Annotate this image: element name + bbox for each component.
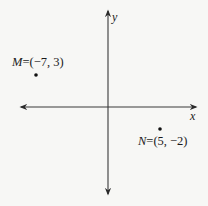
point-n-label: N=(5, −2)	[138, 135, 188, 148]
point-n	[158, 127, 162, 131]
y-axis-label: y	[112, 11, 117, 23]
point-m-name: M	[12, 55, 22, 69]
point-n-coords: =(5, −2)	[146, 134, 187, 148]
coordinate-plane	[0, 0, 208, 206]
x-axis-label: x	[190, 110, 195, 122]
point-m-coords: =(−7, 3)	[22, 55, 63, 69]
point-m	[34, 73, 38, 77]
point-m-label: M=(−7, 3)	[12, 56, 64, 69]
